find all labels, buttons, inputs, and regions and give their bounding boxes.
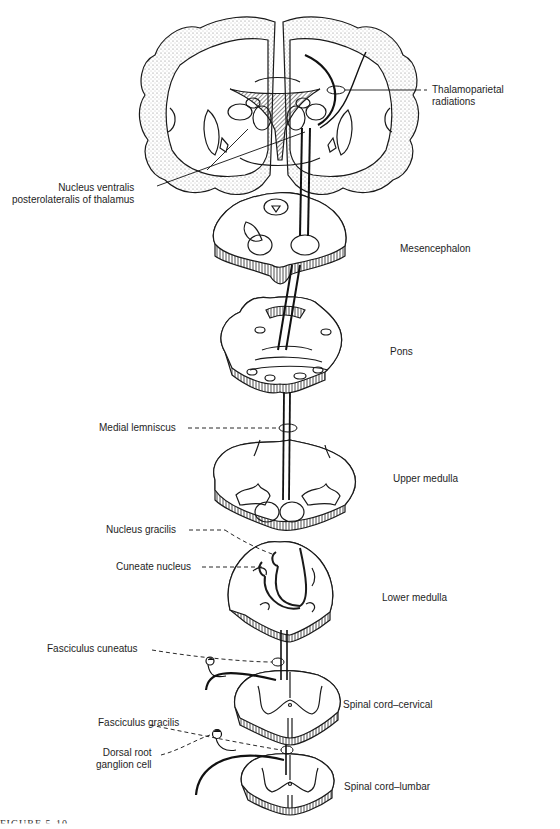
- spinal-cord-lumbar-section: [241, 754, 334, 815]
- upper-medulla-section: [214, 440, 356, 530]
- lower-medulla-section: [228, 542, 333, 642]
- label-nucleus-gracilis: Nucleus gracilis: [106, 524, 176, 536]
- label-upper-medulla: Upper medulla: [393, 473, 458, 485]
- spinal-cord-cervical-section: [235, 671, 341, 745]
- mesencephalon-section: [213, 193, 346, 284]
- label-nucleus-ventralis-posterolateralis: Nucleus ventralis posterolateralis of th…: [12, 182, 134, 206]
- cerebrum-coronal-section: [139, 17, 418, 195]
- label-fasciculus-cuneatus: Fasciculus cuneatus: [47, 643, 138, 655]
- medial-lemniscus-diagram: [0, 0, 560, 829]
- label-fasciculus-gracilis: Fasciculus gracilis: [98, 717, 179, 729]
- label-thalamoparietal-radiations: Thalamoparietal radiations: [432, 84, 504, 108]
- label-spinal-cord-lumbar: Spinal cord–lumbar: [344, 781, 430, 793]
- label-spinal-cord-cervical: Spinal cord–cervical: [343, 699, 433, 711]
- label-dorsal-root-ganglion-cell: Dorsal root ganglion cell: [96, 747, 152, 771]
- pons-section: [221, 297, 342, 393]
- label-lower-medulla: Lower medulla: [382, 592, 447, 604]
- label-cuneate-nucleus: Cuneate nucleus: [116, 561, 191, 573]
- label-medial-lemniscus: Medial lemniscus: [99, 422, 176, 434]
- label-mesencephalon: Mesencephalon: [400, 243, 471, 255]
- label-pons: Pons: [390, 346, 413, 358]
